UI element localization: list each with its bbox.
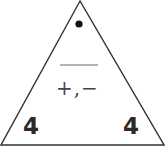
top-dot-icon [75,20,82,27]
bottom-right-number: 4 [123,115,139,138]
operations-label: +,− [56,78,99,98]
bottom-left-number: 4 [23,115,39,138]
